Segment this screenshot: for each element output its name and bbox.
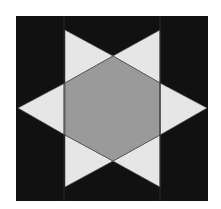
- star-hexagon-figure: [0, 0, 221, 209]
